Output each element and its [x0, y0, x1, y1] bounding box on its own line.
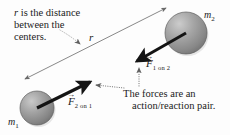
label-mass-1-subscript: 1 — [15, 122, 19, 130]
caption-action-reaction-line1: The forces are an — [123, 88, 196, 99]
sphere-mass-2 — [165, 12, 209, 56]
vector-arrow-icon: → — [145, 52, 153, 61]
label-mass-2: m2 — [204, 9, 215, 23]
label-force-2-on-1-subscript: 2 on 1 — [75, 102, 92, 109]
caption-distance-line1: is the distance — [18, 7, 80, 18]
label-force-2-on-1: →F2 on 1 — [68, 95, 92, 108]
caption-distance-definition: r is the distance between the centers. — [14, 7, 80, 42]
vector-arrow-icon: → — [67, 90, 75, 99]
caption-action-reaction: The forces are an action/reaction pair. — [123, 88, 215, 112]
label-distance-r: r — [89, 31, 93, 44]
label-force-1-on-2-vector: →F — [146, 57, 153, 70]
label-mass-1: m1 — [8, 116, 19, 130]
physics-figure-gravitation: r is the distance between the centers. T… — [0, 0, 230, 135]
caption-distance-line3: centers. — [14, 31, 46, 42]
label-force-1-on-2: →F1 on 2 — [146, 57, 170, 70]
caption-action-reaction-line2: action/reaction pair. — [123, 100, 215, 112]
label-force-2-on-1-vector: →F — [68, 95, 75, 108]
label-force-1-on-2-subscript: 1 on 2 — [153, 64, 170, 71]
label-mass-2-subscript: 2 — [211, 15, 215, 23]
leader-line-force-2-on-1 — [96, 85, 124, 88]
caption-distance-line2: between the — [14, 19, 64, 30]
